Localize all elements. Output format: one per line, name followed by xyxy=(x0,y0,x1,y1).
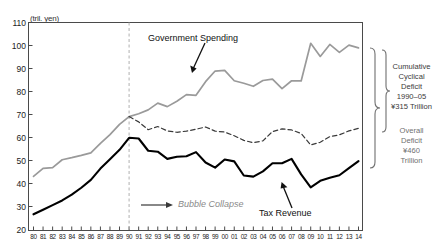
od-line-2: Deficit xyxy=(385,136,438,146)
bubble-collapse-label: Bubble Collapse xyxy=(178,199,244,209)
ccd-line-1: Cumulative xyxy=(385,62,438,72)
y-tick-marks xyxy=(29,46,33,207)
x-tick-14: 14 xyxy=(352,233,366,240)
ccd-line-2: Cyclical xyxy=(385,72,438,82)
chart-root: (tril. yen) 110 100 90 80 70 60 50 40 30… xyxy=(0,0,438,248)
ccd-line-5: ¥315 Trillion xyxy=(385,102,438,112)
x-tick-marks xyxy=(34,227,359,231)
overall-deficit-text: Overall Deficit ¥460 Trillion xyxy=(385,126,438,166)
od-line-4: Trillion xyxy=(385,156,438,166)
tax-revenue-leader-arrow xyxy=(281,182,292,208)
ccd-line-4: 1990–05 xyxy=(385,92,438,102)
tax-revenue-label: Tax Revenue xyxy=(259,208,312,218)
government-spending-leader-arrow xyxy=(190,43,205,73)
ccd-line-3: Deficit xyxy=(385,82,438,92)
cumulative-cyclical-deficit-text: Cumulative Cyclical Deficit 1990–05 ¥315… xyxy=(385,62,438,112)
od-line-3: ¥460 xyxy=(385,146,438,156)
series-counterfactual-spending xyxy=(129,117,358,145)
bubble-collapse-arrow xyxy=(141,202,173,208)
brace-overall-deficit xyxy=(370,48,380,168)
government-spending-label: Government Spending xyxy=(148,33,238,43)
od-line-1: Overall xyxy=(385,126,438,136)
